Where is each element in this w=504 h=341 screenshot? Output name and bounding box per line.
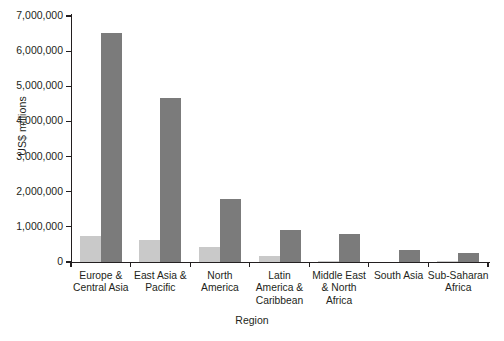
x-axis-tick	[249, 262, 250, 267]
y-axis-tick-label: 3,000,000	[0, 150, 63, 162]
x-axis-tick	[309, 262, 310, 267]
y-axis-tick-label: 5,000,000	[0, 79, 63, 91]
bar	[280, 230, 301, 262]
x-axis-tick	[368, 262, 369, 267]
bar	[139, 240, 160, 262]
bar-chart: US$ millions 7,000,0006,000,0005,000,000…	[0, 0, 504, 341]
y-axis-tick-label: 1,000,000	[0, 220, 63, 232]
x-axis-tick	[70, 262, 71, 267]
x-axis-tick	[487, 262, 488, 267]
x-axis-title: Region	[0, 314, 504, 326]
x-axis-group-label-line: Africa	[302, 295, 376, 307]
bar	[458, 253, 479, 262]
y-axis-tick-label: 6,000,000	[0, 44, 63, 56]
bar	[199, 247, 220, 262]
y-axis-tick-label: 2,000,000	[0, 185, 63, 197]
plot-area	[71, 16, 488, 262]
bar	[318, 261, 339, 262]
bar	[437, 261, 458, 262]
x-axis-group-label-line: Sub-Saharan	[421, 270, 495, 282]
x-axis-tick	[428, 262, 429, 267]
bar	[80, 236, 101, 262]
bar	[101, 33, 122, 262]
y-axis-tick-label: 4,000,000	[0, 114, 63, 126]
bar	[160, 98, 181, 262]
x-axis-tick	[130, 262, 131, 267]
bar	[399, 250, 420, 262]
y-axis-tick-label: 7,000,000	[0, 9, 63, 21]
bar	[339, 234, 360, 262]
bar	[259, 256, 280, 262]
x-axis-tick	[190, 262, 191, 267]
y-axis-tick-label: 0	[0, 255, 63, 267]
x-axis-group-label-line: & North	[302, 282, 376, 294]
bar	[220, 199, 241, 262]
x-axis-group-label: Sub-SaharanAfrica	[421, 270, 495, 295]
x-axis-group-label-line: Africa	[421, 282, 495, 294]
